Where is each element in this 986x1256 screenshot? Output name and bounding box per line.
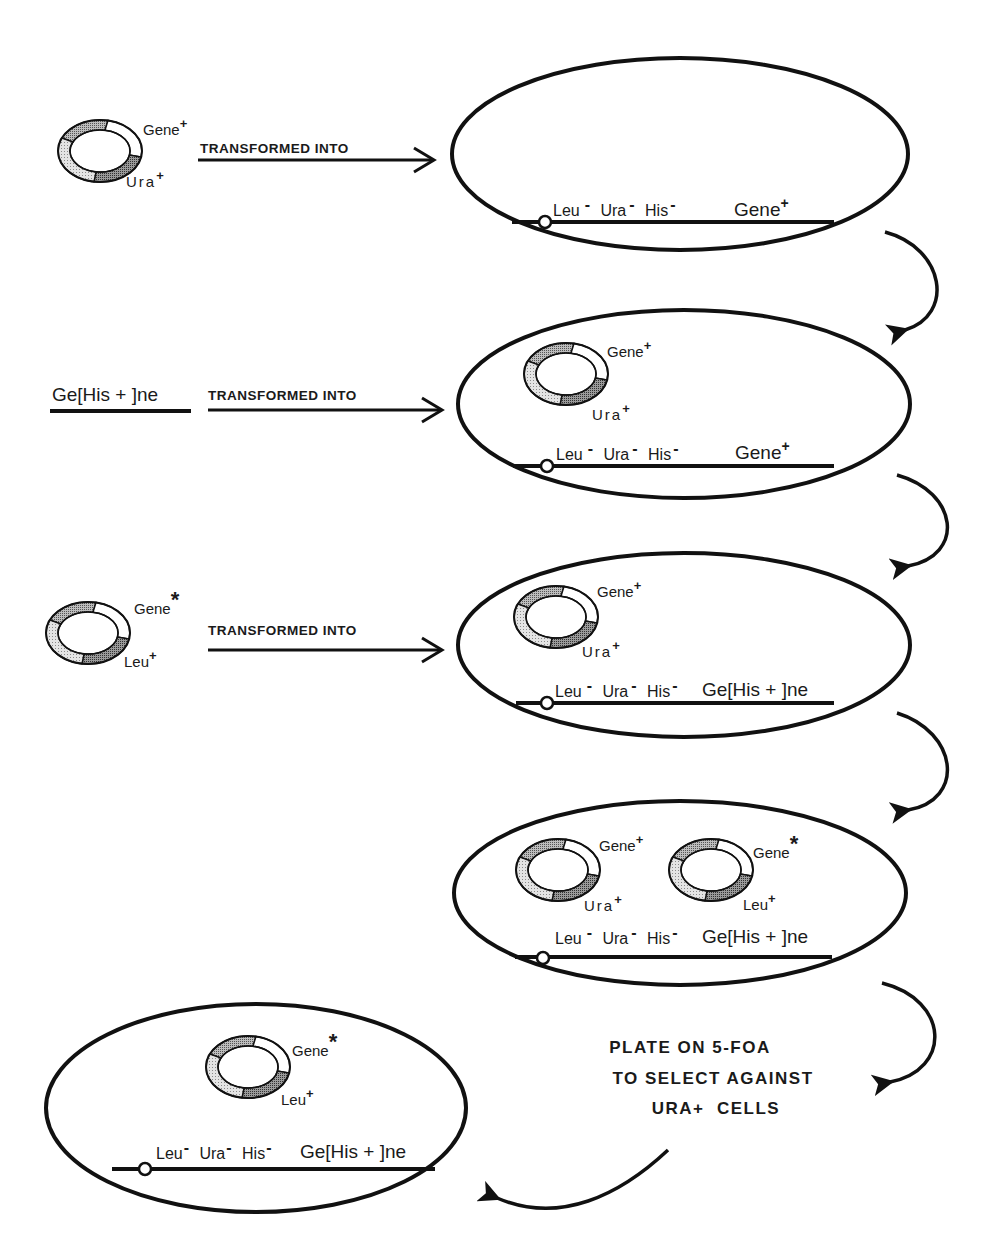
plasmid-label-top: Gene* xyxy=(753,831,799,861)
transformed-into-label: TRANSFORMED INTO xyxy=(208,388,357,403)
plasmid-gene-star-leu-plus-icon xyxy=(46,602,130,664)
centromere-icon xyxy=(139,1163,151,1175)
chromosome-markers: Leu- Ura- His- xyxy=(555,924,677,947)
plasmid-label-top: Gene+ xyxy=(599,832,644,854)
chromosome-gene-label: Ge[His + ]ne xyxy=(702,679,808,700)
plasmid-label-bottom: Ura+ xyxy=(592,401,630,423)
selection-text-line-2: TO SELECT AGAINST xyxy=(612,1069,813,1088)
chromosome-markers: Leu- Ura- His- xyxy=(556,440,678,463)
chromosome-markers: Leu- Ura- His- xyxy=(553,196,675,219)
plasmid-gene-star-leu-plus-icon xyxy=(669,839,753,901)
plasmid-gene-plus-ura-plus-icon xyxy=(524,343,608,405)
centromere-icon xyxy=(537,952,549,964)
flow-arrow-1 xyxy=(885,232,937,330)
yeast-cell xyxy=(458,310,910,498)
flow-arrow-2 xyxy=(897,475,947,566)
chromosome-gene-label: Gene+ xyxy=(735,438,790,463)
step-3: Gene* Leu+ TRANSFORMED INTO Gene+ Ura+ L… xyxy=(46,553,947,810)
flow-arrow-3 xyxy=(897,713,947,810)
plasmid-label-top: Gene+ xyxy=(597,578,642,600)
plasmid-label-top: Gene+ xyxy=(143,116,188,138)
plasmid-gene-star-leu-plus-icon xyxy=(206,1036,290,1098)
plasmid-label-bottom: Leu+ xyxy=(743,891,776,913)
yeast-cell xyxy=(458,553,910,737)
plasmid-gene-plus-ura-plus-icon xyxy=(516,839,600,901)
chromosome-markers: Leu- Ura- His- xyxy=(156,1139,271,1162)
transformed-into-label: TRANSFORMED INTO xyxy=(200,141,349,156)
plasmid-label-bottom: Leu+ xyxy=(281,1086,314,1108)
chromosome-markers: Leu- Ura- His- xyxy=(555,677,677,700)
centromere-icon xyxy=(539,216,551,228)
centromere-icon xyxy=(541,460,553,472)
chromosome-gene-label: Ge[His + ]ne xyxy=(702,926,808,947)
step-5: PLATE ON 5-FOA TO SELECT AGAINST URA+ CE… xyxy=(46,1004,814,1212)
chromosome-gene-label: Ge[His + ]ne xyxy=(300,1141,406,1162)
transformed-into-label: TRANSFORMED INTO xyxy=(208,623,357,638)
flow-arrow-5 xyxy=(497,1150,668,1208)
linear-dna-label: Ge[His + ]ne xyxy=(52,384,158,405)
plasmid-label-bottom: Ura+ xyxy=(582,638,620,660)
plasmid-label-bottom: Ura+ xyxy=(584,892,622,914)
selection-text-line-1: PLATE ON 5-FOA xyxy=(609,1038,770,1057)
selection-text-line-3: URA+ CELLS xyxy=(652,1099,780,1118)
yeast-cell-final xyxy=(46,1004,466,1212)
plasmid-label-bottom: Leu+ xyxy=(124,648,157,670)
plasmid-label-top: Gene+ xyxy=(607,338,652,360)
chromosome-gene-label: Gene+ xyxy=(734,195,789,220)
centromere-icon xyxy=(541,697,553,709)
plasmid-gene-plus-ura-plus-icon xyxy=(514,586,598,648)
step-2: Ge[His + ]ne TRANSFORMED INTO Gene+ Ura+… xyxy=(50,310,947,566)
plasmid-label-top: Gene* xyxy=(134,587,180,617)
diagram-canvas: Gene+ Ura+ TRANSFORMED INTO Leu- Ura- Hi… xyxy=(0,0,986,1256)
step-1: Gene+ Ura+ TRANSFORMED INTO Leu- Ura- Hi… xyxy=(58,58,937,330)
plasmid-label-top: Gene* xyxy=(292,1029,338,1059)
flow-arrow-4 xyxy=(882,983,935,1082)
